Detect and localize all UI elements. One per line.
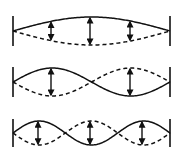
dashed-wave (13, 68, 170, 96)
diagram-canvas (0, 0, 181, 159)
mode-1-panel (13, 16, 170, 46)
standing-wave-diagram (0, 0, 181, 159)
solid-wave (13, 121, 170, 145)
solid-wave (13, 17, 170, 31)
mode-2-panel (13, 67, 170, 97)
dashed-wave (13, 31, 170, 45)
mode-3-panel (13, 119, 170, 147)
dashed-wave (13, 121, 170, 145)
